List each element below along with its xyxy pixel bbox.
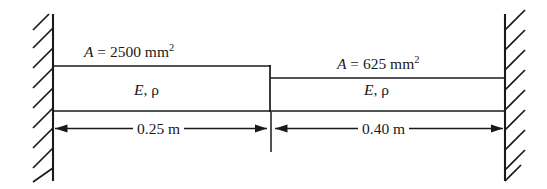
left-area-unit: mm [145, 43, 169, 60]
right-segment-material-label: E, ρ [364, 82, 389, 98]
left-area-value: 2500 [110, 43, 141, 60]
right-area-unit: mm [390, 55, 414, 72]
right-area-exponent: 2 [414, 54, 419, 65]
diagram-canvas [0, 0, 547, 189]
right-density-symbol: ρ [381, 81, 389, 98]
right-area-symbol: A [337, 55, 346, 72]
left-density-symbol: ρ [151, 81, 159, 98]
right-fixed-support [505, 10, 525, 181]
left-segment-material-label: E, ρ [134, 82, 159, 98]
left-bar-segment [53, 65, 271, 112]
left-wall-hatching [33, 14, 53, 182]
left-segment-area-label: A = 2500 mm2 [84, 44, 174, 60]
left-modulus-symbol: E [134, 81, 143, 98]
right-segment-length-label: 0.40 m [358, 121, 409, 137]
stepped-bar-diagram: A = 2500 mm2 A = 625 mm2 E, ρ E, ρ 0.25 … [0, 0, 547, 189]
right-wall-hatching [505, 10, 525, 181]
right-modulus-symbol: E [364, 81, 373, 98]
right-area-value: 625 [363, 55, 386, 72]
left-fixed-support [33, 14, 53, 182]
right-segment-area-label: A = 625 mm2 [337, 56, 419, 72]
left-area-symbol: A [84, 43, 93, 60]
left-area-exponent: 2 [169, 42, 174, 53]
left-segment-length-label: 0.25 m [133, 121, 184, 137]
